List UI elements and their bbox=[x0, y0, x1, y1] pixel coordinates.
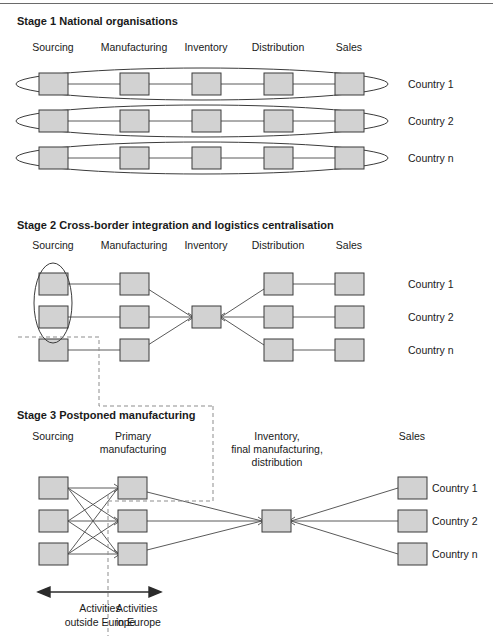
stage-2-node-manufacturing-n bbox=[120, 339, 149, 361]
stage-1-row-country-1: Country 1 bbox=[16, 68, 454, 100]
footer-right-label-line2: in Europe bbox=[116, 616, 161, 628]
stage-3-header-inventory-line3: distribution bbox=[252, 456, 303, 468]
stage-1-label-country-2: Country 2 bbox=[408, 115, 454, 127]
footer-right-label-line1: Activities bbox=[116, 602, 157, 614]
stage-2-column-headers: Sourcing Manufacturing Inventory Distrib… bbox=[32, 239, 362, 251]
stage-1-header-sourcing: Sourcing bbox=[32, 41, 74, 53]
stage-3-column-headers: Sourcing Primary manufacturing Inventory… bbox=[32, 430, 425, 468]
stage-1-node-distribution-2 bbox=[264, 110, 293, 132]
stage-2-label-country-1: Country 1 bbox=[408, 278, 454, 290]
stage-3-header-inventory-line1: Inventory, bbox=[254, 430, 299, 442]
stage-2-link-mfg-hub-1 bbox=[148, 289, 192, 317]
stage-1-header-manufacturing: Manufacturing bbox=[101, 41, 168, 53]
stage-2-header-sales: Sales bbox=[336, 239, 362, 251]
stage-1-node-inventory-2 bbox=[192, 110, 221, 132]
stage-1-node-sourcing-1 bbox=[39, 73, 68, 95]
stage-3-header-primary-manufacturing-line2: manufacturing bbox=[100, 443, 167, 455]
stage-1-node-manufacturing-n bbox=[120, 147, 149, 169]
stage-1-label-country-n: Country n bbox=[408, 152, 454, 164]
footer-legend-group: Activities outside Europe Activities in … bbox=[38, 587, 161, 628]
stage-2-title: Stage 2 Cross-border integration and log… bbox=[17, 219, 334, 231]
stage-2-node-sourcing-n bbox=[39, 339, 68, 361]
stage-2-header-distribution: Distribution bbox=[252, 239, 305, 251]
stage-3-header-inventory-line2: final manufacturing, bbox=[231, 443, 323, 455]
stage-1-header-distribution: Distribution bbox=[252, 41, 305, 53]
stage-3-node-sourcing-2 bbox=[39, 510, 68, 532]
stage-1-header-inventory: Inventory bbox=[184, 41, 228, 53]
stage-3-title: Stage 3 Postponed manufacturing bbox=[17, 409, 195, 421]
stage-2-node-manufacturing-2 bbox=[120, 306, 149, 328]
stage-3-node-primary-manufacturing-2 bbox=[118, 510, 147, 532]
supply-chain-diagram: Stage 1 National organisations Sourcing … bbox=[0, 0, 493, 641]
stage-3-node-sales-2 bbox=[398, 510, 427, 532]
stage-3-header-sales: Sales bbox=[399, 430, 425, 442]
stage-1-node-manufacturing-2 bbox=[120, 110, 149, 132]
stage-3-link-hub-sales-1 bbox=[291, 488, 398, 521]
stage-3-header-primary-manufacturing-line1: Primary bbox=[115, 430, 152, 442]
stage-2-node-sourcing-2 bbox=[39, 306, 68, 328]
stage-2-node-sales-1 bbox=[335, 273, 364, 295]
stage-2-label-country-2: Country 2 bbox=[408, 311, 454, 323]
stage-3-node-sourcing-1 bbox=[39, 477, 68, 499]
stage-1-node-distribution-n bbox=[264, 147, 293, 169]
stage-1-header-sales: Sales bbox=[336, 41, 362, 53]
stage-2-link-mfg-hub-n bbox=[148, 317, 192, 345]
stage-2-header-inventory: Inventory bbox=[184, 239, 228, 251]
stage-3-node-inventory-hub bbox=[262, 510, 291, 532]
stage-3-node-primary-manufacturing-n bbox=[118, 543, 147, 565]
stage-1-row-country-2: Country 2 bbox=[16, 105, 454, 137]
stage-1-row-country-n: Country n bbox=[16, 142, 454, 174]
footer-left-label-line1: Activities bbox=[79, 602, 120, 614]
stage-3-node-sourcing-n bbox=[39, 543, 68, 565]
stage-3-label-country-n: Country n bbox=[432, 548, 478, 560]
stage-1-node-sales-2 bbox=[335, 110, 364, 132]
stage-2-header-manufacturing: Manufacturing bbox=[101, 239, 168, 251]
stage-1-node-distribution-1 bbox=[264, 73, 293, 95]
top-divider-rule bbox=[0, 3, 493, 4]
stage-3-sourcing-to-manufacturing-links bbox=[68, 488, 118, 554]
stage-2-node-sales-n bbox=[335, 339, 364, 361]
stage-1-group: Stage 1 National organisations Sourcing … bbox=[16, 15, 454, 174]
stage-2-label-country-n: Country n bbox=[408, 344, 454, 356]
stage-2-node-sales-2 bbox=[335, 306, 364, 328]
stage-2-group: Stage 2 Cross-border integration and log… bbox=[17, 219, 454, 406]
stage-3-link-m1-hub bbox=[147, 492, 262, 521]
stage-1-node-inventory-n bbox=[192, 147, 221, 169]
stage-3-node-primary-manufacturing-1 bbox=[118, 477, 147, 499]
arrow-head-right-icon bbox=[149, 587, 161, 597]
stage-2-node-distribution-2 bbox=[264, 306, 293, 328]
stage-1-node-sourcing-n bbox=[39, 147, 68, 169]
stage-3-label-country-1: Country 1 bbox=[432, 482, 478, 494]
stage-2-node-sourcing-1 bbox=[39, 273, 68, 295]
stage-3-node-sales-n bbox=[398, 543, 427, 565]
stage-3-link-mn-hub bbox=[147, 521, 262, 550]
stage-1-node-sourcing-2 bbox=[39, 110, 68, 132]
arrow-head-left-icon bbox=[38, 587, 50, 597]
stage-2-header-sourcing: Sourcing bbox=[32, 239, 74, 251]
stage-1-node-inventory-1 bbox=[192, 73, 221, 95]
stage-3-label-country-2: Country 2 bbox=[432, 515, 478, 527]
stage-3-link-hub-sales-n bbox=[291, 521, 398, 554]
stage-3-node-sales-1 bbox=[398, 477, 427, 499]
stage-3-header-sourcing: Sourcing bbox=[32, 430, 74, 442]
stage-1-column-headers: Sourcing Manufacturing Inventory Distrib… bbox=[32, 41, 362, 53]
stage-1-node-sales-1 bbox=[335, 73, 364, 95]
stage-2-node-manufacturing-1 bbox=[120, 273, 149, 295]
stage-2-link-hub-dist-n bbox=[221, 317, 264, 345]
stage-2-node-distribution-1 bbox=[264, 273, 293, 295]
stage-1-node-sales-n bbox=[335, 147, 364, 169]
stage-1-label-country-1: Country 1 bbox=[408, 78, 454, 90]
stage-1-node-manufacturing-1 bbox=[120, 73, 149, 95]
figure-root: Stage 1 National organisations Sourcing … bbox=[0, 0, 493, 641]
stage-1-title: Stage 1 National organisations bbox=[17, 15, 178, 27]
stage-2-node-distribution-n bbox=[264, 339, 293, 361]
stage-2-link-hub-dist-1 bbox=[221, 289, 264, 317]
stage-2-node-inventory-hub bbox=[192, 306, 221, 328]
